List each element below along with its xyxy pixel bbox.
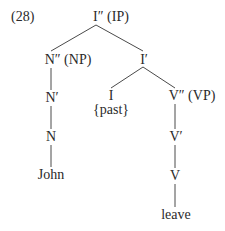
node-vbar: V′	[169, 130, 182, 144]
edge-ip-ibar	[96, 25, 143, 51]
edge-ibar-i	[111, 67, 143, 88]
node-vp: V″ (VP)	[169, 89, 216, 103]
feature-past: {past}	[93, 103, 129, 117]
word-john: John	[38, 168, 64, 182]
edge-ip-np	[51, 25, 96, 51]
node-ibar: I′	[140, 53, 148, 67]
node-np: N″ (NP)	[45, 53, 92, 67]
node-ip: I″ (IP)	[93, 10, 129, 24]
node-n: N	[46, 130, 56, 144]
word-leave: leave	[161, 208, 191, 222]
node-nbar: N′	[45, 91, 58, 105]
node-i: I	[109, 89, 114, 103]
node-v: V	[170, 169, 180, 183]
example-number: (28)	[11, 10, 34, 24]
edge-ibar-vp	[143, 67, 175, 88]
